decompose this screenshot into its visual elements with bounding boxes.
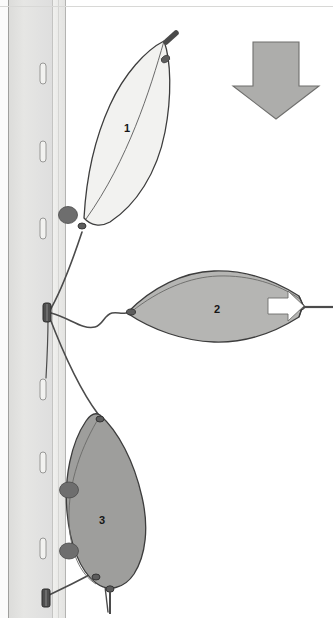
knob-middle <box>60 482 79 498</box>
wall-anchor-clip <box>43 303 51 322</box>
bottom-left-bracket <box>42 589 50 607</box>
rail-slot <box>40 452 46 473</box>
rail-slot <box>40 63 46 84</box>
label-shape-3: 3 <box>99 515 105 526</box>
scan-left-margin <box>0 0 9 618</box>
shape-3-top-eyelet <box>96 416 104 422</box>
figure-canvas: 1 2 3 <box>0 0 333 618</box>
rail-slot <box>40 141 46 162</box>
label-shape-1: 1 <box>124 123 130 134</box>
rail-slot <box>40 218 46 239</box>
shape-2-left-eyelet <box>127 309 136 315</box>
diagram-svg <box>0 0 333 618</box>
rail-strip <box>53 0 66 618</box>
knob-upper <box>59 207 78 224</box>
rail-slot <box>40 379 46 400</box>
shape-3-bottom-eyelet <box>92 574 100 580</box>
rail-slot <box>40 538 46 559</box>
shape-1-eyelet <box>78 223 86 229</box>
knob-lower <box>60 543 79 559</box>
label-shape-2: 2 <box>214 304 220 315</box>
